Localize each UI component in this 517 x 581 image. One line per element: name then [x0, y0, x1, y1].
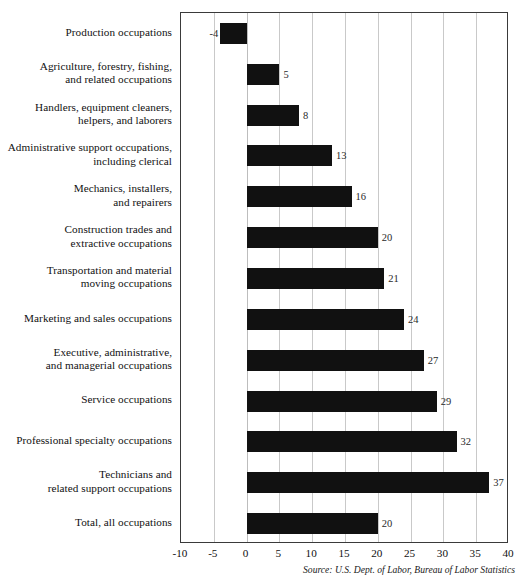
x-tick-label-20: 20 [371, 545, 382, 561]
bar [247, 64, 280, 85]
bar [247, 186, 352, 207]
bar-value-label: 32 [461, 431, 472, 452]
bar-value-label: 5 [283, 64, 288, 85]
category-label-line: moving occupations [81, 277, 172, 289]
category-label: Marketing and sales occupations [0, 312, 172, 326]
x-tick-label-30: 30 [437, 545, 448, 561]
category-label: Construction trades andextractive occupa… [0, 223, 172, 250]
bar-value-label: 16 [356, 186, 367, 207]
category-label-line: Technicians and [99, 468, 172, 480]
x-tick-label-15: 15 [338, 545, 349, 561]
category-label-line: Construction trades and [65, 223, 172, 235]
gridline-25 [411, 13, 412, 542]
bar-value-label: 29 [441, 391, 452, 412]
category-label-line: Production occupations [66, 26, 172, 38]
category-label: Executive, administrative,and managerial… [0, 346, 172, 373]
bar-value-label: 24 [408, 309, 419, 330]
bar [247, 145, 332, 166]
bar [247, 431, 457, 452]
bar-chart-figure: Production occupationsAgriculture, fores… [0, 0, 517, 581]
category-label-line: and related occupations [65, 73, 172, 85]
source-note: Source: U.S. Dept. of Labor, Bureau of L… [303, 564, 515, 575]
bar-value-label: 13 [336, 145, 347, 166]
category-label: Production occupations [0, 26, 172, 40]
bar [247, 309, 404, 330]
category-label: Administrative support occupations,inclu… [0, 141, 172, 168]
category-label-line: Marketing and sales occupations [24, 312, 172, 324]
category-label-column: Production occupationsAgriculture, fores… [0, 12, 172, 543]
bar [247, 268, 385, 289]
category-label-line: Total, all occupations [75, 516, 172, 528]
x-tick-label-0: 0 [243, 545, 249, 561]
category-label-line: Executive, administrative, [54, 346, 172, 358]
x-tick-label-10: 10 [306, 545, 317, 561]
x-tick-label--5: -5 [208, 545, 217, 561]
gridline-35 [476, 13, 477, 542]
category-label: Professional specialty occupations [0, 434, 172, 448]
category-label-line: Administrative support occupations, [8, 141, 172, 153]
category-label-line: Professional specialty occupations [16, 434, 172, 446]
category-label-line: Transportation and material [47, 264, 172, 276]
category-label: Handlers, equipment cleaners,helpers, an… [0, 101, 172, 128]
bar [247, 350, 424, 371]
category-label-line: Agriculture, forestry, fishing, [40, 60, 172, 72]
gridline-30 [443, 13, 444, 542]
bar [247, 227, 378, 248]
bar [220, 23, 246, 44]
x-axis-ticks: -10-50510152025303540 [180, 545, 508, 563]
bar-value-label: 21 [388, 268, 399, 289]
category-label: Mechanics, installers,and repairers [0, 182, 172, 209]
bar-value-label: 37 [493, 472, 504, 493]
category-label-line: Handlers, equipment cleaners, [35, 101, 172, 113]
category-label-line: helpers, and laborers [78, 114, 172, 126]
bar [247, 105, 299, 126]
bar-value-label: 8 [303, 105, 308, 126]
category-label-line: including clerical [93, 155, 172, 167]
bar-value-label: 27 [428, 350, 439, 371]
x-tick-label-25: 25 [404, 545, 415, 561]
x-tick-label--10: -10 [173, 545, 188, 561]
category-label: Agriculture, forestry, fishing,and relat… [0, 60, 172, 87]
category-label-line: Service occupations [81, 393, 172, 405]
category-label: Technicians andrelated support occupatio… [0, 468, 172, 495]
x-tick-label-5: 5 [276, 545, 282, 561]
bar [247, 513, 378, 534]
bar [247, 391, 437, 412]
bar-value-label: 20 [382, 227, 393, 248]
category-label-line: Mechanics, installers, [74, 182, 172, 194]
category-label-line: and managerial occupations [46, 359, 172, 371]
bar [247, 472, 490, 493]
category-label-line: and repairers [113, 196, 172, 208]
category-label: Service occupations [0, 393, 172, 407]
category-label-line: related support occupations [48, 482, 172, 494]
category-label: Transportation and materialmoving occupa… [0, 264, 172, 291]
bar-value-label: 20 [382, 513, 393, 534]
plot-area: -45813162021242729323720 [180, 12, 508, 543]
category-label: Total, all occupations [0, 516, 172, 530]
x-tick-label-35: 35 [470, 545, 481, 561]
x-tick-label-40: 40 [502, 545, 513, 561]
category-label-line: extractive occupations [71, 237, 172, 249]
gridline--5 [214, 13, 215, 542]
bar-value-label: -4 [206, 23, 218, 44]
